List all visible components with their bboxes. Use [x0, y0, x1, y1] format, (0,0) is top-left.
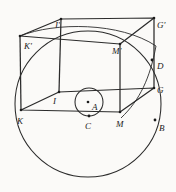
label-i: I: [53, 97, 56, 106]
label-g: G: [157, 86, 164, 95]
vertex-iprime-dot: [60, 18, 63, 21]
vertex-m-dot: [119, 111, 122, 114]
circumscribed-circle: [15, 31, 161, 177]
geometry-canvas: [0, 0, 176, 192]
label-b: B: [159, 124, 165, 133]
label-a: A: [92, 103, 98, 112]
label-c: C: [85, 122, 91, 131]
label-k: K: [17, 117, 23, 126]
point-d-dot: [151, 59, 154, 62]
vertex-kprime-dot: [19, 35, 22, 38]
sphere-equator-arc: [20, 27, 156, 46]
vertex-gprime-dot: [153, 17, 156, 20]
label-m-prime: M': [112, 47, 121, 56]
point-b-dot: [154, 119, 157, 122]
label-d: D: [157, 62, 164, 71]
geometry-figure: I' G' K' M' D G B I A C K M: [0, 0, 176, 192]
label-g-prime: G': [157, 21, 165, 30]
label-m: M: [116, 120, 124, 129]
point-c-dot: [88, 115, 91, 118]
point-a-dot: [87, 101, 90, 104]
cube-edge-Kprime-K: [20, 36, 21, 110]
vertex-mprime-dot: [119, 43, 122, 46]
point-g-dot: [153, 87, 156, 90]
cube-bottom-face: [21, 88, 154, 112]
label-i-prime: I': [55, 21, 60, 30]
vertex-k-dot: [20, 109, 23, 112]
label-k-prime: K': [24, 42, 32, 51]
vertex-i-dot: [58, 91, 61, 94]
